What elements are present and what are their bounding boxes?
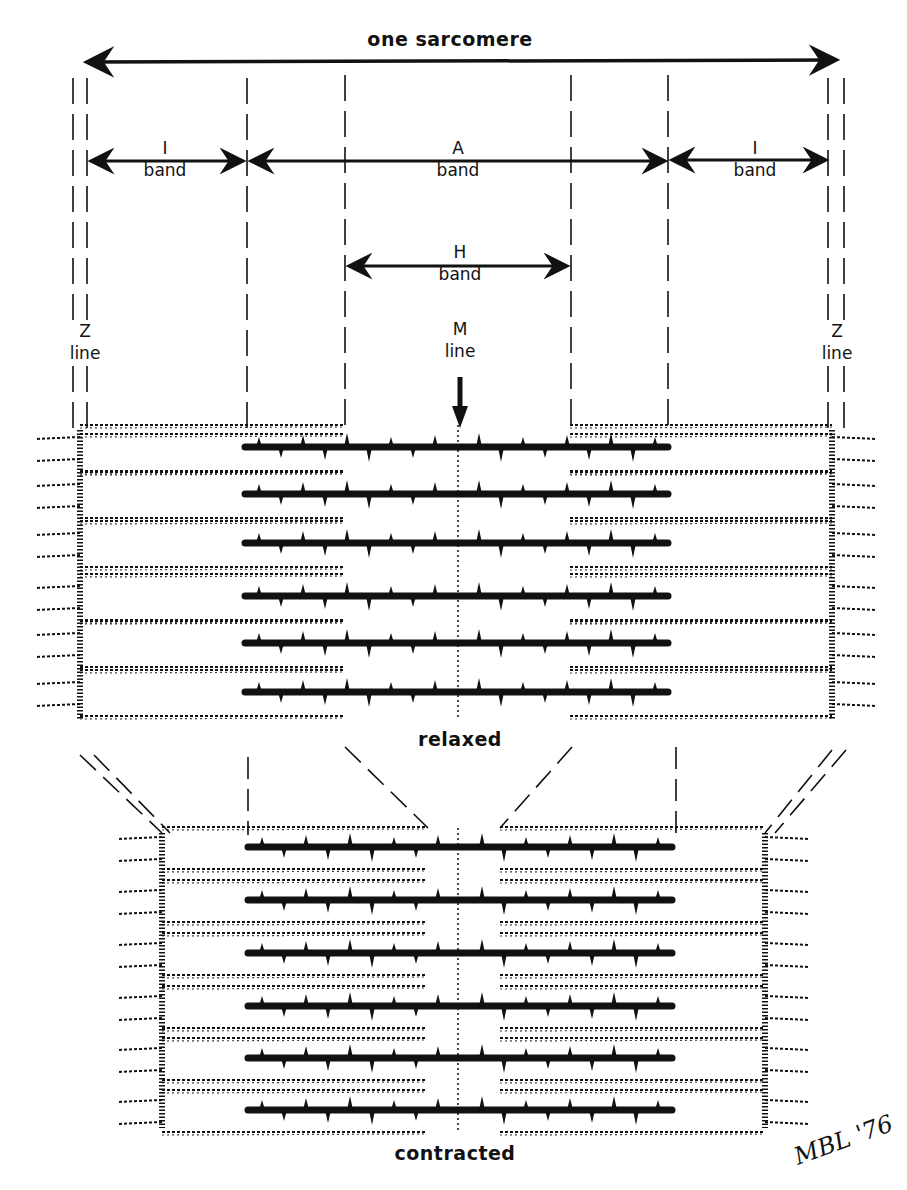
relaxed-sarcomere	[35, 425, 877, 720]
z-line-right-label: Z line	[812, 323, 862, 363]
m-line-letter: M	[420, 321, 500, 339]
a-band-label: A band	[418, 140, 498, 180]
z-line-left-word: line	[60, 345, 110, 363]
i-band-left-letter: I	[125, 140, 205, 158]
h-band-letter: H	[420, 244, 500, 262]
z-line-right-letter: Z	[812, 323, 862, 341]
m-line-word: line	[420, 343, 500, 361]
h-band-word: band	[420, 266, 500, 284]
m-line-arrow	[452, 377, 468, 428]
h-band-label: H band	[420, 244, 500, 284]
connector-lines	[80, 747, 846, 835]
contracted-sarcomere	[117, 827, 810, 1135]
z-line-left-label: Z line	[60, 323, 110, 363]
i-band-left-label: I band	[125, 140, 205, 180]
a-band-word: band	[418, 162, 498, 180]
i-band-right-label: I band	[715, 140, 795, 180]
i-band-right-letter: I	[715, 140, 795, 158]
i-band-right-word: band	[715, 162, 795, 180]
sarcomere-length-arrow	[88, 60, 835, 62]
a-band-letter: A	[418, 140, 498, 158]
z-line-left-letter: Z	[60, 323, 110, 341]
z-line-right-word: line	[812, 345, 862, 363]
i-band-left-word: band	[125, 162, 205, 180]
m-line-label: M line	[420, 321, 500, 361]
sarcomere-title: one sarcomere	[330, 30, 570, 50]
contracted-label: contracted	[380, 1144, 530, 1164]
relaxed-label: relaxed	[400, 730, 520, 750]
